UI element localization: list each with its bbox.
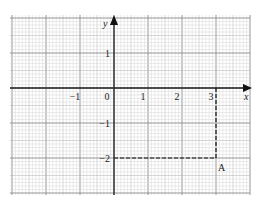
y-axis-label: y [102,18,108,29]
coordinate-grid-chart: −112301−1−2 x y A [0,0,265,213]
y-tick-label: 1 [105,48,110,59]
tick-labels: −112301−1−2 [70,48,214,164]
x-tick-label: 1 [141,91,146,102]
y-tick-label: −1 [99,118,110,129]
x-tick-label: 3 [209,91,214,102]
x-tick-label: −1 [70,91,81,102]
origin-label: 0 [105,91,110,102]
y-axis-arrow-icon [110,15,118,25]
x-tick-label: 2 [175,91,180,102]
y-tick-label: −2 [99,153,110,164]
x-axis-label: x [243,91,249,102]
graph-paper-grid [10,15,250,195]
point-a-label: A [218,162,226,173]
